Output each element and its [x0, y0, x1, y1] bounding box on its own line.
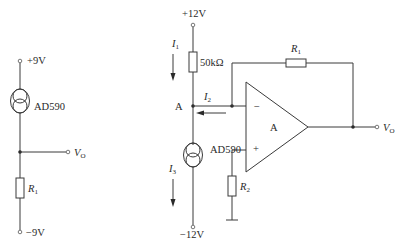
label-plus12v: +12V [182, 8, 206, 19]
label-i1: I1 [171, 38, 180, 51]
left-circuit: +9V AD590 VO R1 −9V [11, 55, 86, 238]
label-minus12v: −12V [180, 229, 204, 240]
junction-dot [351, 125, 355, 129]
label-node-a: A [175, 101, 183, 112]
label-r1-left: R1 [27, 183, 38, 196]
label-ad590-left: AD590 [34, 101, 65, 112]
arrow-i1-icon [171, 73, 176, 81]
terminal-vo-left [66, 150, 70, 154]
opamp-minus-sign: − [254, 101, 260, 112]
arrow-i3-icon [171, 199, 176, 207]
label-plus9v: +9V [27, 55, 46, 66]
opamp-plus-sign: + [253, 143, 259, 154]
resistor-r1-left-icon [16, 178, 24, 198]
label-50k: 50kΩ [200, 57, 224, 68]
label-i3: I3 [168, 163, 177, 176]
arrow-i2-icon [196, 111, 204, 116]
resistor-r1-feedback-icon [286, 59, 306, 67]
label-r2: R2 [239, 181, 250, 194]
label-i2: I2 [203, 91, 212, 104]
label-ad590-right: AD590 [210, 144, 241, 155]
ad590-current-source-icon [184, 143, 203, 167]
resistor-r2-icon [228, 176, 236, 196]
circuit-diagrams: +9V AD590 VO R1 −9V +12V 50kΩ I1 A [0, 0, 406, 244]
terminal-plus9v [18, 59, 22, 63]
terminal-vo-right [375, 125, 379, 129]
terminal-minus9v [18, 230, 22, 234]
terminal-plus12v [191, 23, 195, 27]
ad590-current-source-icon [11, 89, 30, 113]
resistor-50k-icon [189, 52, 197, 72]
label-minus9v: −9V [26, 227, 45, 238]
label-vo-right: VO [383, 122, 394, 135]
label-r1-feedback: R1 [290, 43, 301, 56]
right-circuit: +12V 50kΩ I1 A I2 R1 − + A [168, 8, 394, 240]
label-opamp-a: A [270, 122, 278, 133]
label-vo-left: VO [74, 147, 85, 160]
